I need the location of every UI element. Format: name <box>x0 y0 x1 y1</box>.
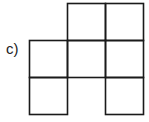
square-grid-figure <box>0 0 149 122</box>
grid-square <box>106 78 144 115</box>
grid-square <box>68 41 106 78</box>
grid-square <box>30 41 68 78</box>
grid-square <box>106 41 144 78</box>
grid-square <box>30 78 68 115</box>
grid-square <box>68 4 106 41</box>
grid-square <box>106 4 144 41</box>
